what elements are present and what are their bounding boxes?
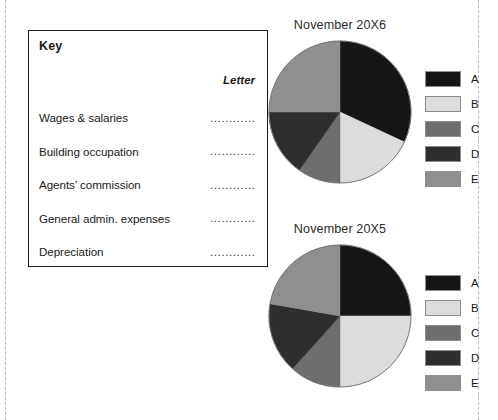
key-row-label: Wages & salaries	[39, 111, 128, 124]
legend-label-e: E	[471, 377, 479, 389]
legend-item: E	[425, 166, 479, 191]
legend-item: E	[425, 370, 479, 395]
key-row: Building occupation ..............	[29, 135, 267, 169]
legend-item: A	[425, 66, 479, 91]
key-row-label: Agents’ commission	[39, 178, 141, 191]
key-row: General admin. expenses ..............	[29, 202, 267, 236]
pie-slice-a	[340, 245, 411, 316]
key-row-label: Depreciation	[39, 245, 104, 258]
legend-swatch-d	[425, 146, 461, 162]
key-row-answer-blank[interactable]: ..............	[210, 212, 256, 224]
legend-label-a: A	[471, 73, 479, 85]
pie-slice-e	[269, 41, 340, 112]
legend-swatch-d	[425, 350, 461, 366]
legend-item: C	[425, 116, 479, 141]
legend-item: D	[425, 141, 479, 166]
worksheet-page: Key Letter Wages & salaries ............…	[0, 0, 498, 420]
pie-chart-20x5	[268, 244, 412, 388]
legend-item: D	[425, 345, 479, 370]
key-row-label: General admin. expenses	[39, 212, 170, 225]
pie-slice-e	[270, 245, 340, 316]
legend-label-c: C	[471, 123, 479, 135]
pie-svg	[268, 244, 412, 388]
legend-label-b: B	[471, 302, 479, 314]
pie-slice-b	[340, 316, 411, 387]
legend-item: B	[425, 91, 479, 116]
legend-label-e: E	[471, 173, 479, 185]
key-letter-column-header: Letter	[223, 74, 255, 86]
legend-item: C	[425, 320, 479, 345]
legend-20x6: A B C D E	[425, 66, 479, 191]
legend-swatch-c	[425, 325, 461, 341]
key-row-answer-blank[interactable]: ..............	[210, 145, 256, 157]
chart-title: November 20X6	[262, 18, 418, 32]
chart-title: November 20X5	[262, 222, 418, 236]
key-row: Wages & salaries ..............	[29, 101, 267, 135]
legend-swatch-c	[425, 121, 461, 137]
legend-label-a: A	[471, 277, 479, 289]
legend-label-b: B	[471, 98, 479, 110]
left-margin-guide	[5, 0, 6, 420]
key-box: Key Letter Wages & salaries ............…	[28, 30, 268, 267]
legend-20x5: A B C D E	[425, 270, 479, 395]
legend-swatch-e	[425, 375, 461, 391]
pie-slice-group	[269, 245, 411, 387]
key-row-answer-blank[interactable]: ..............	[210, 246, 256, 258]
key-row-answer-blank[interactable]: ..............	[210, 112, 256, 124]
pie-svg	[268, 40, 412, 184]
key-row: Agents’ commission ..............	[29, 168, 267, 202]
legend-swatch-a	[425, 71, 461, 87]
legend-item: A	[425, 270, 479, 295]
legend-label-d: D	[471, 352, 479, 364]
legend-label-c: C	[471, 327, 479, 339]
legend-swatch-b	[425, 300, 461, 316]
pie-chart-20x6	[268, 40, 412, 184]
key-title: Key	[39, 39, 62, 53]
legend-item: B	[425, 295, 479, 320]
legend-swatch-b	[425, 96, 461, 112]
key-row-label: Building occupation	[39, 145, 139, 158]
legend-swatch-a	[425, 275, 461, 291]
legend-label-d: D	[471, 148, 479, 160]
pie-slice-group	[269, 41, 411, 183]
key-row: Depreciation ..............	[29, 235, 267, 269]
key-row-list: Wages & salaries .............. Building…	[29, 101, 267, 269]
legend-swatch-e	[425, 171, 461, 187]
key-row-answer-blank[interactable]: ..............	[210, 179, 256, 191]
